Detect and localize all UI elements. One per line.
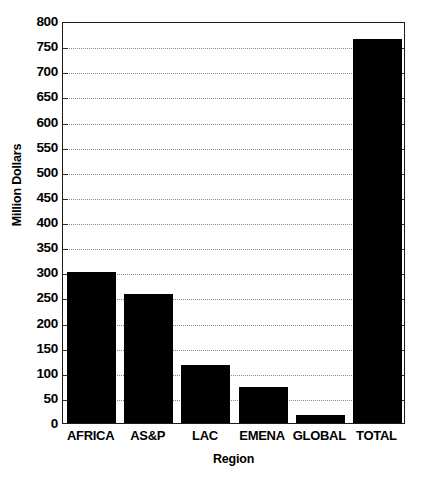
bars-group: [63, 23, 404, 423]
x-tick-label: LAC: [176, 428, 233, 443]
plot-area: [62, 22, 405, 424]
x-axis-title: Region: [62, 452, 405, 466]
bar: [296, 415, 345, 423]
bar: [239, 387, 288, 423]
y-tick-label: 600: [18, 116, 58, 130]
y-tick-label: 50: [18, 392, 58, 406]
y-tick-label: 100: [18, 367, 58, 381]
y-tick-label: 800: [18, 15, 58, 29]
x-tick-label: AS&P: [119, 428, 176, 443]
x-axis-tick-labels: AFRICAAS&PLACEMENAGLOBALTOTAL: [62, 428, 405, 448]
bar: [67, 272, 116, 423]
y-tick-label: 400: [18, 216, 58, 230]
bar: [353, 39, 402, 423]
y-tick-label: 700: [18, 66, 58, 80]
x-tick-label: EMENA: [234, 428, 291, 443]
y-tick-label: 150: [18, 342, 58, 356]
y-tick-label: 0: [18, 417, 58, 431]
y-tick-label: 500: [18, 166, 58, 180]
y-tick-label: 300: [18, 267, 58, 281]
y-tick-label: 250: [18, 292, 58, 306]
y-tick-label: 450: [18, 191, 58, 205]
y-tick-label: 650: [18, 91, 58, 105]
y-tick-label: 750: [18, 40, 58, 54]
x-tick-label: GLOBAL: [291, 428, 348, 443]
bar: [124, 294, 173, 423]
bar: [181, 365, 230, 423]
y-axis-tick-labels: 0501001502002503003504004505005506006507…: [18, 22, 58, 424]
y-tick-label: 350: [18, 241, 58, 255]
x-tick-label: AFRICA: [62, 428, 119, 443]
y-tick-label: 550: [18, 141, 58, 155]
bar-chart: Million Dollars 050100150200250300350400…: [0, 0, 422, 478]
y-tick-label: 200: [18, 317, 58, 331]
x-tick-label: TOTAL: [348, 428, 405, 443]
